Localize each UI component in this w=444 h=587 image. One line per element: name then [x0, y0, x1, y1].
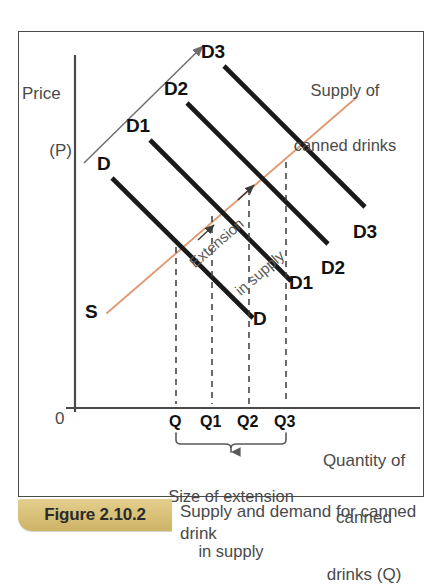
- x-tick-label-Q3: Q3: [274, 413, 295, 431]
- demand-label-D2-lower: D2: [321, 257, 345, 278]
- origin-label: 0: [55, 409, 64, 428]
- supply-annotation-line1: Supply of: [271, 81, 419, 99]
- demand-label-D3-upper: D3: [201, 41, 225, 62]
- figure-caption-row: Figure 2.10.2 Supply and demand for cann…: [18, 499, 438, 557]
- y-axis-title-line1: Price: [22, 84, 72, 103]
- demand-label-D3-lower: D3: [353, 221, 377, 242]
- x-axis-title-line1: Quantity of: [308, 451, 420, 470]
- figure-number-label: Figure 2.10.2: [18, 499, 172, 531]
- supply-annotation: Supply of canned drinks: [271, 44, 419, 192]
- x-axis-title-line3: drinks (Q): [308, 565, 420, 584]
- y-axis-title: Price (P): [22, 46, 72, 198]
- supply-annotation-line2: canned drinks: [271, 136, 419, 154]
- x-tick-label-Q: Q: [169, 413, 181, 431]
- x-tick-label-Q2: Q2: [237, 413, 258, 431]
- x-tick-label-Q1: Q1: [200, 413, 221, 431]
- y-axis-title-line2: (P): [22, 141, 72, 160]
- demand-label-D2-upper: D2: [164, 78, 188, 99]
- extension-label-line2: in supply: [222, 238, 298, 307]
- supply-curve-label: S: [85, 301, 97, 322]
- demand-label-D-upper: D: [97, 153, 111, 174]
- demand-label-D1-upper: D1: [126, 115, 150, 136]
- figure-caption-text: Supply and demand for canned drink: [180, 501, 438, 545]
